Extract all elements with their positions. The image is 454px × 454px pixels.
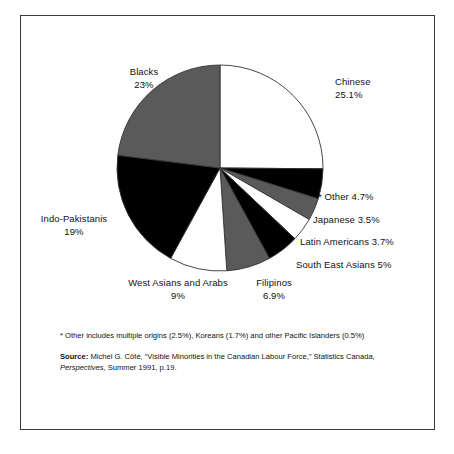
pie-chart-graphic <box>116 64 324 272</box>
pie-label-chinese-name: Chinese <box>335 76 425 89</box>
source-text-part2: , Summer 1991, p.19. <box>103 363 176 372</box>
pie-label-filipinos-value: 6.9% <box>238 290 310 303</box>
pie-label-japanese: Japanese 3.5% <box>313 214 431 227</box>
pie-label-west-asians-and-arabs: West Asians and Arabs 9% <box>112 277 244 302</box>
pie-label-indo-pakistanis-value: 19% <box>22 226 126 239</box>
pie-slice-chinese <box>220 65 323 169</box>
chart-notes: * Other includes multiple origins (2.5%)… <box>60 331 380 373</box>
pie-label-blacks: Blacks 23% <box>108 66 180 91</box>
source-publication-title: Perspectives <box>60 363 103 372</box>
pie-label-latin-americans: Latin Americans 3.7% <box>300 236 435 249</box>
other-footnote: * Other includes multiple origins (2.5%)… <box>60 331 380 341</box>
pie-label-west-asians-name: West Asians and Arabs <box>112 277 244 290</box>
pie-chart-area: Blacks 23% Chinese 25.1% * Other 4.7% Ja… <box>0 0 454 454</box>
pie-label-filipinos-name: Filipinos <box>238 277 310 290</box>
pie-label-south-east-asians: South East Asians 5% <box>296 259 436 272</box>
pie-label-chinese: Chinese 25.1% <box>335 76 425 101</box>
pie-label-indo-pakistanis: Indo-Pakistanis 19% <box>22 213 126 238</box>
pie-label-blacks-name: Blacks <box>108 66 180 79</box>
pie-label-other: * Other 4.7% <box>318 191 428 204</box>
pie-label-indo-pakistanis-name: Indo-Pakistanis <box>22 213 126 226</box>
pie-label-filipinos: Filipinos 6.9% <box>238 277 310 302</box>
source-note: Source: Michel G. Côté, “Visible Minorit… <box>60 352 380 373</box>
pie-label-chinese-value: 25.1% <box>335 89 425 102</box>
pie-label-west-asians-value: 9% <box>112 290 244 303</box>
source-label: Source: <box>60 352 88 361</box>
source-text-part1: Michel G. Côté, “Visible Minorities in t… <box>88 352 374 361</box>
pie-label-blacks-value: 23% <box>108 79 180 92</box>
chart-page: Blacks 23% Chinese 25.1% * Other 4.7% Ja… <box>0 0 454 454</box>
